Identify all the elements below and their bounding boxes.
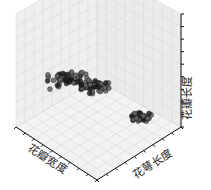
data-point (141, 113, 146, 118)
data-point (80, 70, 85, 75)
data-point (134, 116, 139, 121)
data-point (88, 82, 93, 87)
data-point (74, 73, 79, 78)
z-axis-label: 花瓣长度 (178, 76, 194, 120)
data-point (65, 72, 70, 77)
data-point (98, 89, 103, 94)
data-point (106, 86, 111, 91)
chart-root: 花瓣宽度 花萼长度 花瓣长度 (0, 0, 211, 190)
data-point (51, 78, 56, 83)
data-point (79, 83, 84, 88)
data-point (46, 73, 51, 78)
data-point (147, 111, 152, 116)
data-point (58, 77, 63, 82)
data-point (64, 76, 69, 81)
data-point (133, 111, 138, 116)
data-point (71, 80, 76, 85)
data-point (83, 83, 88, 88)
data-point (93, 79, 98, 84)
data-point (55, 83, 60, 88)
data-point (61, 71, 66, 76)
data-point (48, 87, 53, 92)
data-point (103, 81, 108, 86)
